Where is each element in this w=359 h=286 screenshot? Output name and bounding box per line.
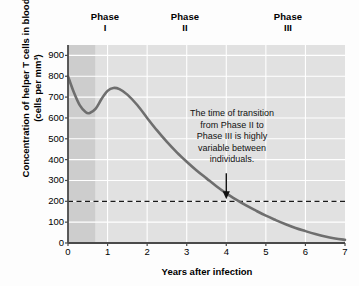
annotation-line-5: individuals. — [168, 154, 296, 166]
annotation-line-3: Phase III is highly — [168, 131, 296, 143]
chart-figure: Phase I Phase II Phase III Concentration… — [0, 0, 359, 286]
x-axis-title: Years after infection — [68, 266, 346, 277]
annotation-line-4: variable between — [168, 143, 296, 155]
annotation-line-1: The time of transition — [168, 108, 296, 120]
transition-annotation: The time of transition from Phase II to … — [168, 108, 296, 166]
annotation-line-2: from Phase II to — [168, 120, 296, 132]
phase-1-band — [68, 45, 96, 243]
